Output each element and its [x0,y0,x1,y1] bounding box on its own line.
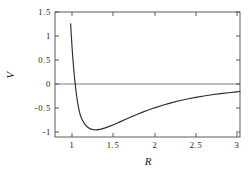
y-tick-marks [55,12,240,132]
x-tick-label: 2 [153,140,158,150]
y-tick-label: -1 [43,127,51,137]
x-tick-label: 3 [235,140,240,150]
y-tick-label: -0.5 [35,103,51,113]
y-tick-label: 1 [46,31,51,41]
y-axis-title: V [4,70,16,78]
lennard-jones-curve [71,24,240,130]
y-tick-label: 1.5 [38,7,51,17]
y-tick-labels: 1.5 1 0.5 0 -0.5 -1 [35,7,51,137]
x-tick-label: 1.5 [107,140,120,150]
x-tick-label: 1 [70,140,75,150]
potential-energy-curve-plot: 1.5 1 0.5 0 -0.5 -1 1 1.5 2 2.5 3 V R [0,0,250,174]
x-tick-marks [72,12,237,137]
chart-figure: 1.5 1 0.5 0 -0.5 -1 1 1.5 2 2.5 3 V R [0,0,250,174]
y-tick-label: 0 [46,79,51,89]
x-tick-label: 2.5 [190,140,203,150]
x-tick-labels: 1 1.5 2 2.5 3 [70,140,240,150]
plot-frame [55,12,240,137]
x-axis-title: R [144,155,152,167]
y-tick-label: 0.5 [38,55,51,65]
